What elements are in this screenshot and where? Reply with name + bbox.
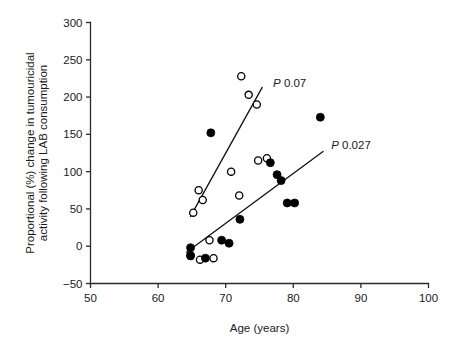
data-point-filled [207, 129, 215, 137]
y-tick-label: 250 [63, 54, 82, 66]
data-point-open [195, 187, 202, 194]
data-point-filled [291, 199, 299, 207]
x-tick-label: 100 [419, 292, 438, 304]
y-tick-label: 200 [63, 91, 82, 103]
y-axis-title-line2: activity following LAB consumption [37, 65, 49, 241]
data-point-filled [201, 254, 209, 262]
y-tick-label: 300 [63, 17, 82, 29]
data-point-open [253, 101, 260, 108]
chart-canvas: −500501001502002503005060708090100Age (y… [0, 0, 460, 358]
data-point-open [190, 209, 197, 216]
data-point-filled [316, 113, 324, 121]
data-point-open [199, 196, 206, 203]
data-point-open [236, 192, 243, 199]
y-tick-label: 50 [70, 203, 83, 215]
data-point-open [210, 255, 217, 262]
y-axis-ticks: −50050100150200250300 [63, 17, 91, 290]
y-axis-title: Proportional (%) change in tumouricidala… [24, 52, 49, 253]
data-point-filled [266, 159, 274, 167]
data-point-filled [187, 252, 195, 260]
axes-group [91, 23, 429, 284]
data-point-filled [236, 215, 244, 223]
data-point-open [238, 73, 245, 80]
x-axis-title: Age (years) [230, 322, 290, 334]
data-point-filled [218, 236, 226, 244]
data-point-filled [187, 244, 195, 252]
data-point-filled [283, 199, 291, 207]
x-tick-label: 70 [219, 292, 232, 304]
data-point-filled [277, 177, 285, 185]
y-tick-label: 100 [63, 166, 82, 178]
p-value-filled: P 0.027 [331, 139, 371, 151]
data-point-open [228, 168, 235, 175]
data-point-open [255, 157, 262, 164]
p-value-open: P 0.07 [273, 77, 306, 89]
data-point-open [206, 237, 213, 244]
x-tick-label: 60 [152, 292, 165, 304]
y-axis-title-line1: Proportional (%) change in tumouricidal [24, 52, 36, 253]
series-open-circles [187, 73, 271, 264]
y-tick-label: 150 [63, 128, 82, 140]
y-tick-label: 0 [76, 240, 82, 252]
data-point-filled [225, 239, 233, 247]
x-tick-label: 90 [355, 292, 368, 304]
regression-lines-group [186, 87, 323, 252]
data-point-open [245, 91, 252, 98]
scatter-plot-figure: −500501001502002503005060708090100Age (y… [0, 0, 460, 358]
x-axis-ticks: 5060708090100 [84, 284, 438, 304]
x-tick-label: 50 [84, 292, 97, 304]
y-tick-label: −50 [63, 278, 83, 290]
axis-lines [91, 23, 429, 284]
x-tick-label: 80 [287, 292, 300, 304]
